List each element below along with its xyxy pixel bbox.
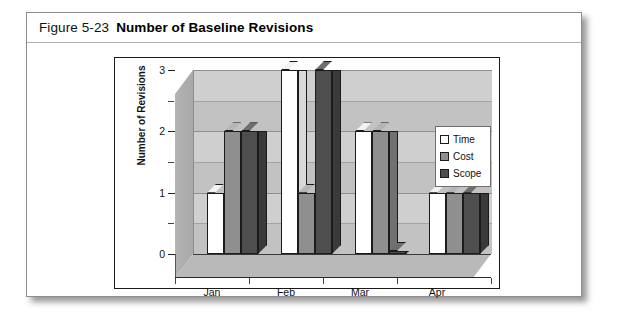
- plot-left-wall: [175, 70, 194, 278]
- bar-jan-time: [207, 193, 224, 254]
- bar-face-side: [480, 193, 489, 254]
- figure-card: Figure 5-23 Number of Baseline Revisions…: [26, 12, 582, 297]
- gridline: [194, 70, 492, 71]
- bar-mar-scope: [389, 251, 406, 254]
- gridline: [194, 101, 492, 102]
- y-tick-label: 1: [143, 187, 165, 199]
- legend-label-scope: Scope: [453, 168, 481, 179]
- x-tickmark: [323, 278, 324, 284]
- chart-inner: Number of Revisions 3 2 1 0: [115, 58, 499, 288]
- legend-swatch-scope: [440, 169, 449, 178]
- figure-caption: Figure 5-23 Number of Baseline Revisions: [27, 13, 581, 43]
- legend-label-cost: Cost: [453, 151, 474, 162]
- x-tickmark: [249, 278, 250, 284]
- bar-feb-time: [281, 70, 298, 254]
- y-tick-label: 3: [143, 64, 165, 76]
- bar-face-top: [281, 61, 298, 70]
- page-title: Number of Baseline Revisions: [116, 20, 313, 35]
- chart-container: Number of Revisions 3 2 1 0: [114, 57, 500, 289]
- legend-label-time: Time: [453, 134, 475, 145]
- x-tickmark: [397, 278, 398, 284]
- plot-band: [194, 70, 492, 101]
- bar-face-top: [315, 61, 332, 70]
- plot-floor: [175, 254, 491, 278]
- plot-baseline: [193, 254, 491, 255]
- bar-jan-cost: [224, 131, 241, 254]
- x-tick-label-mar: Mar: [351, 286, 369, 298]
- legend-item-scope: Scope: [440, 165, 485, 182]
- figure-number: Figure 5-23: [39, 20, 109, 35]
- bar-face-front: [446, 193, 463, 254]
- page-root: Figure 5-23 Number of Baseline Revisions…: [0, 0, 621, 319]
- bar-face-front: [241, 131, 258, 254]
- y-tickmark: [168, 254, 175, 255]
- bar-face-front: [315, 70, 332, 254]
- x-tick-label-apr: Apr: [429, 286, 445, 298]
- legend-item-time: Time: [440, 131, 485, 148]
- x-tickmark: [175, 278, 176, 284]
- y-tick-label: 0: [143, 248, 165, 260]
- y-tickmark: [168, 162, 174, 163]
- bar-face-front: [463, 193, 480, 254]
- y-axis-tick-labels: 3 2 1 0: [143, 58, 165, 288]
- x-tick-label-feb: Feb: [277, 286, 295, 298]
- y-tickmark: [168, 70, 175, 71]
- bar-face-front: [389, 251, 406, 254]
- legend-swatch-cost: [440, 152, 449, 161]
- y-tickmark: [168, 223, 174, 224]
- bar-apr-cost: [446, 193, 463, 254]
- bar-face-side: [389, 131, 398, 254]
- x-axis-line: [175, 277, 491, 278]
- legend-item-cost: Cost: [440, 148, 485, 165]
- bar-mar-time: [355, 131, 372, 254]
- bar-face-front: [298, 193, 315, 254]
- y-tickmark: [168, 101, 174, 102]
- bar-face-front: [281, 70, 298, 254]
- y-tickmark: [168, 193, 175, 194]
- bar-mar-cost: [372, 131, 389, 254]
- bar-jan-scope: [241, 131, 258, 254]
- x-tickmark: [491, 278, 492, 284]
- bar-face-side: [258, 131, 267, 254]
- bar-feb-scope: [315, 70, 332, 254]
- bar-feb-cost: [298, 193, 315, 254]
- bar-face-front: [207, 193, 224, 254]
- bar-apr-scope: [463, 193, 480, 254]
- x-tick-label-jan: Jan: [204, 286, 221, 298]
- plot-floor-left-edge: [175, 254, 195, 278]
- bar-face-front: [429, 193, 446, 254]
- y-tickmark: [168, 131, 175, 132]
- chart-legend: Time Cost Scope: [435, 126, 491, 187]
- bar-apr-time: [429, 193, 446, 254]
- y-tick-label: 2: [143, 125, 165, 137]
- bar-face-front: [224, 131, 241, 254]
- bar-face-front: [372, 131, 389, 254]
- bar-face-front: [355, 131, 372, 254]
- legend-swatch-time: [440, 135, 449, 144]
- bar-face-side: [332, 70, 341, 254]
